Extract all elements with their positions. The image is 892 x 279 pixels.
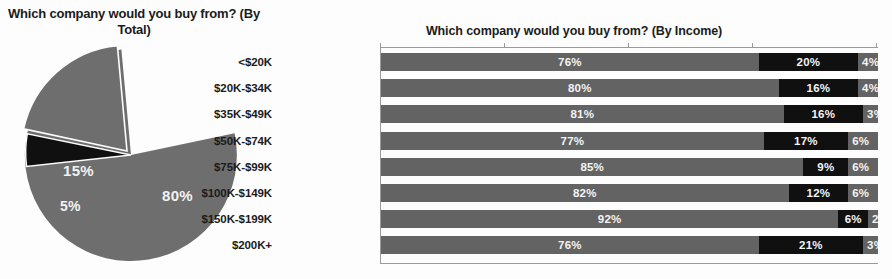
bar-chart-panel: Which company would you buy from? (By In… <box>268 0 892 279</box>
bar-chart-plot-area: 76%20%4%80%16%4%81%16%3%77%17%6%85%9%6%8… <box>380 47 878 264</box>
bar-segment-a: 80% <box>381 79 779 97</box>
axis-top-line <box>380 47 878 48</box>
chart-figure: Which company would you buy from? (By To… <box>0 0 892 279</box>
bar-segment-b: 6% <box>838 210 868 228</box>
bar-segment-label: 16% <box>784 105 864 123</box>
bar-category-label: $100K-$149K <box>201 187 272 199</box>
bar-row: 92%6%2% <box>381 210 878 228</box>
bar-segment-a: 82% <box>381 184 789 202</box>
bar-segment-c: 4% <box>858 79 878 97</box>
pie-slice-label-5: 5% <box>60 198 81 214</box>
bar-segment-a: 81% <box>381 105 784 123</box>
bar-segment-b: 21% <box>759 236 863 254</box>
pie-svg <box>0 40 268 279</box>
bar-segment-label: 85% <box>381 158 803 176</box>
bar-segment-label: 3% <box>863 236 878 254</box>
bar-category-label: $150K-$199K <box>201 213 272 225</box>
bar-category-label: <$20K <box>238 56 272 68</box>
bar-segment-a: 76% <box>381 53 759 71</box>
bar-segment-label: 21% <box>759 236 863 254</box>
bar-segment-label: 6% <box>838 210 868 228</box>
bar-category-label: $35K-$49K <box>214 108 272 120</box>
bar-segment-c: 3% <box>863 236 878 254</box>
bar-segment-label: 17% <box>764 132 848 150</box>
bar-row: 76%21%3% <box>381 236 878 254</box>
bar-segment-label: 4% <box>858 53 878 71</box>
bar-row: 77%17%6% <box>381 132 878 150</box>
bar-row: 82%12%6% <box>381 184 878 202</box>
bar-segment-c: 4% <box>858 53 878 71</box>
x-axis-tick <box>628 43 629 48</box>
bar-segment-label: 4% <box>858 79 878 97</box>
bar-segment-label: 76% <box>381 53 759 71</box>
x-axis-tick <box>504 43 505 48</box>
bar-segment-label: 82% <box>381 184 789 202</box>
bar-segment-label: 77% <box>381 132 764 150</box>
bar-category-label: $20K-$34K <box>214 82 272 94</box>
axis-bottom-line <box>380 263 878 264</box>
pie-slice-label-80: 80% <box>162 187 193 204</box>
bar-segment-label: 92% <box>381 210 838 228</box>
bar-chart-title: Which company would you buy from? (By In… <box>268 24 880 38</box>
bar-segment-b: 12% <box>789 184 849 202</box>
bar-segment-label: 9% <box>803 158 848 176</box>
bar-segment-label: 6% <box>848 132 878 150</box>
bar-segment-label: 81% <box>381 105 784 123</box>
bar-segment-b: 20% <box>759 53 858 71</box>
bar-segment-label: 6% <box>848 158 878 176</box>
x-axis-tick <box>876 43 877 48</box>
bar-segment-a: 76% <box>381 236 759 254</box>
bar-segment-c: 6% <box>848 158 878 176</box>
bar-segment-c: 2% <box>868 210 878 228</box>
bar-segment-label: 16% <box>779 79 859 97</box>
bar-row: 76%20%4% <box>381 53 878 71</box>
bar-segment-label: 80% <box>381 79 779 97</box>
bar-segment-c: 3% <box>863 105 878 123</box>
bar-segment-b: 16% <box>784 105 864 123</box>
bar-row: 85%9%6% <box>381 158 878 176</box>
bar-row: 80%16%4% <box>381 79 878 97</box>
bar-segment-b: 9% <box>803 158 848 176</box>
bar-row: 81%16%3% <box>381 105 878 123</box>
bar-segment-c: 6% <box>848 132 878 150</box>
bar-segment-b: 17% <box>764 132 848 150</box>
bar-segment-label: 12% <box>789 184 849 202</box>
bar-segment-label: 2% <box>868 210 878 228</box>
bar-segment-c: 6% <box>848 184 878 202</box>
bar-category-label: $200K+ <box>232 239 272 251</box>
bar-category-label: $75K-$99K <box>214 161 272 173</box>
bar-segment-label: 76% <box>381 236 759 254</box>
pie-chart-title: Which company would you buy from? (By To… <box>8 6 260 38</box>
bar-category-label: $50K-$74K <box>214 135 272 147</box>
bar-segment-label: 3% <box>863 105 878 123</box>
bar-segment-b: 16% <box>779 79 859 97</box>
x-axis-tick <box>380 43 381 48</box>
bar-segment-a: 77% <box>381 132 764 150</box>
pie-chart-graphic: 80% 15% 5% <box>0 40 268 279</box>
bar-segment-a: 85% <box>381 158 803 176</box>
bar-segment-label: 20% <box>759 53 858 71</box>
bar-segment-a: 92% <box>381 210 838 228</box>
x-axis-tick <box>752 43 753 48</box>
bar-segment-label: 6% <box>848 184 878 202</box>
pie-slice-label-15: 15% <box>63 162 94 179</box>
